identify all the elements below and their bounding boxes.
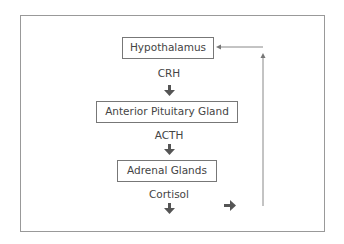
right-arrow-icon <box>224 200 236 211</box>
connectors <box>0 0 344 244</box>
down-arrow-icon <box>164 85 175 214</box>
